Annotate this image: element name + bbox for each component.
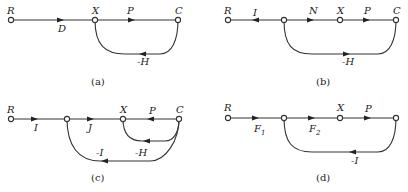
label-p: P xyxy=(364,103,372,114)
label-neg-h: -H xyxy=(135,147,147,158)
feedback-inner-c-x xyxy=(123,119,179,141)
label-p: P xyxy=(363,5,371,16)
node-r xyxy=(8,116,13,121)
label-c: C xyxy=(393,5,401,16)
label-r: R xyxy=(6,5,15,16)
node-x xyxy=(337,115,342,120)
feedback-loop-c-x xyxy=(95,20,178,54)
label-r: R xyxy=(223,102,232,113)
feedback-n2-n1 xyxy=(284,118,396,152)
label-x: X xyxy=(336,102,345,113)
node-c xyxy=(175,17,180,22)
node-x xyxy=(92,17,97,22)
arrow-right-icon xyxy=(363,18,370,23)
diagram-b: R I N X P C -H (b) xyxy=(223,5,401,87)
label-p: P xyxy=(148,105,156,116)
loop-n1-c xyxy=(284,20,396,54)
node-n1 xyxy=(64,116,69,121)
label-n: N xyxy=(308,5,319,16)
label-f2-subscript: 2 xyxy=(315,129,321,137)
arrow-right-icon xyxy=(252,116,259,121)
arrow-left-icon xyxy=(101,159,108,164)
label-c: C xyxy=(176,104,184,115)
label-neg-h: -H xyxy=(137,56,149,67)
caption-d: (d) xyxy=(316,172,330,183)
diagram-a: R D X P C -H (a) xyxy=(6,5,183,87)
label-j: J xyxy=(86,122,93,133)
arrow-left-icon xyxy=(147,117,154,122)
arrow-right-icon xyxy=(57,18,64,23)
arrow-left-icon xyxy=(252,18,259,23)
label-r: R xyxy=(223,5,232,16)
node-r xyxy=(225,115,230,120)
label-c: C xyxy=(175,5,183,16)
label-i: I xyxy=(33,122,39,133)
label-f1-subscript: 1 xyxy=(261,129,265,137)
node-c xyxy=(176,116,181,121)
label-x: X xyxy=(119,104,128,115)
caption-c: (c) xyxy=(91,172,105,183)
label-neg-i: -I xyxy=(351,155,359,166)
node-r xyxy=(8,17,13,22)
arrow-left-icon xyxy=(143,139,150,144)
label-p: P xyxy=(126,5,134,16)
node-n1 xyxy=(281,17,286,22)
caption-b: (b) xyxy=(316,76,330,87)
label-x: X xyxy=(336,5,345,16)
node-n1 xyxy=(281,115,286,120)
node-x xyxy=(120,116,125,121)
arrow-left-icon xyxy=(349,150,356,155)
label-x: X xyxy=(91,5,100,16)
caption-a: (a) xyxy=(91,76,105,87)
signal-flow-graphs: R D X P C -H (a) R I N X P C -H (b) xyxy=(0,0,408,192)
arrow-right-icon xyxy=(307,18,314,23)
label-neg-i: -I xyxy=(96,147,104,158)
node-r xyxy=(225,17,230,22)
node-x xyxy=(337,17,342,22)
label-i: I xyxy=(252,7,258,18)
node-c xyxy=(393,17,398,22)
node-n2 xyxy=(393,115,398,120)
diagram-c: R I J X P C -H -I (c) xyxy=(6,104,184,183)
label-r: R xyxy=(6,104,15,115)
arrow-right-icon xyxy=(31,117,38,122)
arrow-right-icon xyxy=(364,116,371,121)
arrow-right-icon xyxy=(128,18,135,23)
diagram-d: R F 1 F 2 X P -I (d) xyxy=(223,102,399,183)
arrow-right-icon xyxy=(308,116,315,121)
label-d: D xyxy=(57,23,66,34)
label-neg-h: -H xyxy=(342,56,354,67)
arrow-right-icon xyxy=(87,117,94,122)
